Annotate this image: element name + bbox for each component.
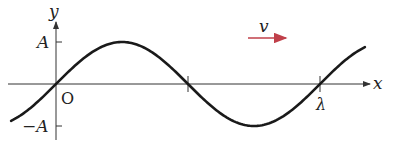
wavelength-label: λ (315, 95, 326, 114)
velocity-label: v (259, 16, 269, 36)
amplitude-pos-label: A (35, 32, 49, 52)
wave-diagram: y x O A −A λ v (0, 0, 395, 155)
x-axis-label: x (373, 73, 383, 93)
amplitude-neg-label: −A (22, 116, 49, 136)
origin-label: O (61, 89, 74, 108)
y-axis-label: y (48, 1, 59, 21)
